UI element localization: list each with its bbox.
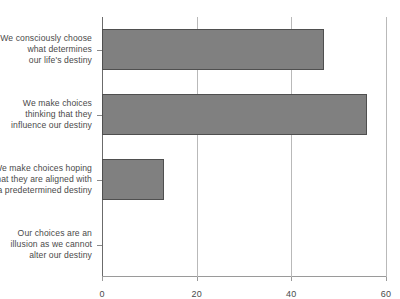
gridline — [386, 17, 387, 277]
category-label: We make choicesthinking that theyinfluen… — [0, 98, 92, 132]
category-label-line: that they are aligned with — [0, 174, 92, 185]
category-tick-mark — [97, 50, 102, 51]
category-label-line: We consciously choose — [0, 33, 92, 44]
x-tick-label: 20 — [191, 289, 201, 299]
category-label-line: a predetermined destiny — [0, 185, 92, 196]
bar[interactable] — [102, 159, 164, 200]
x-axis-line — [102, 276, 386, 277]
x-tick-mark — [102, 277, 103, 281]
category-label-line: We make choices hoping — [0, 163, 92, 174]
category-label-line: thinking that they — [0, 109, 92, 120]
category-label-line: illusion as we cannot — [0, 239, 92, 250]
x-tick-label: 0 — [99, 289, 104, 299]
category-label-line: Our choices are an — [0, 228, 92, 239]
category-label-line: We make choices — [0, 98, 92, 109]
plot-area: 0204060 — [102, 17, 386, 277]
category-label-line: alter our destiny — [0, 250, 92, 261]
category-tick-mark — [97, 180, 102, 181]
category-label: Our choices are anillusion as we cannota… — [0, 228, 92, 262]
bar[interactable] — [102, 29, 324, 70]
category-label-line: what determines — [0, 44, 92, 55]
bar[interactable] — [102, 94, 367, 135]
x-tick-mark — [197, 277, 198, 281]
category-tick-mark — [97, 245, 102, 246]
category-label: We make choices hopingthat they are alig… — [0, 163, 92, 197]
category-label-line: influence our destiny — [0, 120, 92, 131]
x-tick-mark — [291, 277, 292, 281]
x-tick-mark — [386, 277, 387, 281]
category-label-line: our life's destiny — [0, 55, 92, 66]
category-label: We consciously choosewhat determinesour … — [0, 33, 92, 67]
category-tick-mark — [97, 115, 102, 116]
x-tick-label: 60 — [381, 289, 391, 299]
x-tick-label: 40 — [286, 289, 296, 299]
